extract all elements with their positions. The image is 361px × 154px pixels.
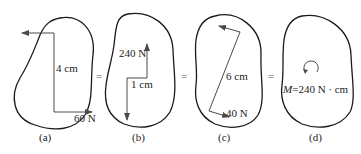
equals-sign-1: = <box>96 70 102 82</box>
equals-sign-2: = <box>181 70 187 82</box>
panel-d: M=240 N · cm (d) <box>282 15 354 144</box>
distance-label-a: 4 cm <box>56 62 78 74</box>
body-outline-b <box>105 13 175 127</box>
equals-sign-3: = <box>268 70 274 82</box>
caption-c: (c) <box>218 131 231 144</box>
distance-label-c: 6 cm <box>226 70 248 82</box>
caption-d: (d) <box>309 131 322 144</box>
equivalent-couples-figure: 4 cm 60 N (a) = 240 N 1 cm (b) = 6 cm 40… <box>0 0 361 154</box>
moment-label: M=240 N · cm <box>282 83 349 95</box>
caption-a: (a) <box>39 131 52 144</box>
panel-c: 6 cm 40 N (c) <box>195 15 262 144</box>
panel-a: 4 cm 60 N (a) <box>14 17 95 144</box>
force-label-b: 240 N <box>119 47 146 59</box>
force-label-a: 60 N <box>74 112 96 124</box>
panel-b: 240 N 1 cm (b) <box>105 13 175 144</box>
caption-b: (b) <box>132 131 145 144</box>
force-label-c: 40 N <box>226 107 248 119</box>
moment-value: =240 N · cm <box>292 83 348 95</box>
force-arrow-upper-c <box>219 26 240 32</box>
moment-arrowhead-icon <box>303 69 308 74</box>
distance-label-b: 1 cm <box>131 78 153 90</box>
